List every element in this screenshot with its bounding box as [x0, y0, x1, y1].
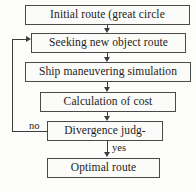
node-ship-simulation-label: Ship maneuvering simulation — [39, 66, 177, 78]
node-seeking-route-label: Seeking new object route — [49, 37, 168, 49]
node-optimal-route-label: Optimal route — [71, 162, 137, 174]
node-calculation-cost-label: Calculation of cost — [64, 96, 153, 108]
node-initial-route-label: Initial route (great circle — [50, 9, 165, 21]
node-calculation-cost[interactable]: Calculation of cost — [40, 92, 176, 112]
node-ship-simulation[interactable]: Ship maneuvering simulation — [25, 62, 191, 82]
feedback-line-top — [12, 39, 27, 40]
flowchart-canvas: Initial route (great circle Seeking new … — [0, 0, 196, 192]
arrowhead-divergence-to-optimal — [104, 152, 110, 157]
arrowhead-feedback-to-seeking — [26, 36, 31, 42]
arrowhead-initial-to-seeking — [104, 28, 110, 33]
node-divergence-judge[interactable]: Divergence judg- — [47, 121, 163, 141]
arrowhead-calculation-to-divergence — [104, 116, 110, 121]
feedback-line-left — [12, 39, 13, 132]
node-optimal-route[interactable]: Optimal route — [47, 158, 160, 178]
node-divergence-judge-label: Divergence judg- — [64, 125, 146, 137]
node-initial-route[interactable]: Initial route (great circle — [25, 5, 190, 25]
edge-label-yes: yes — [112, 143, 126, 154]
node-seeking-route[interactable]: Seeking new object route — [31, 33, 186, 53]
arrowhead-ship-to-calculation — [104, 87, 110, 92]
arrowhead-seeking-to-ship — [104, 57, 110, 62]
edge-label-no: no — [29, 121, 40, 132]
